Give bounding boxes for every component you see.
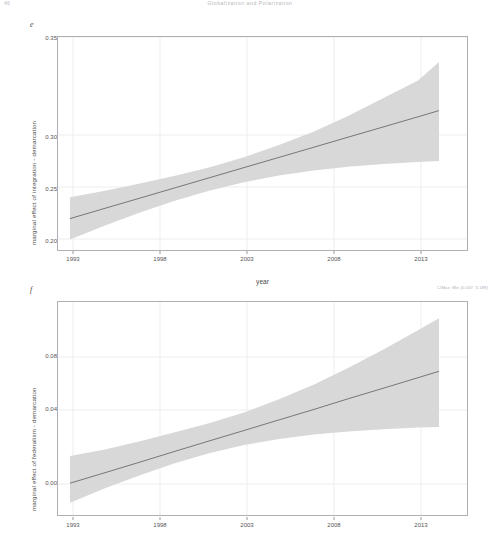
x-axis-title-e: year [57, 278, 468, 285]
x-tick-mark [160, 251, 161, 254]
x-tick-label: 2008 [327, 522, 340, 528]
x-tick-label: 2013 [414, 522, 427, 528]
x-tick-mark [334, 517, 335, 520]
plot-area-e [57, 36, 468, 251]
y-tick-label: 0.08 [11, 353, 57, 359]
running-head: Globalization and Polarization [0, 0, 500, 6]
x-tick-label: 2008 [327, 256, 340, 262]
y-tick-label: 0.30 [11, 134, 57, 140]
plot-area-f [57, 301, 468, 516]
x-tick-mark [421, 517, 422, 520]
page-header: 46 Globalization and Polarization [0, 0, 500, 12]
panel-e: e marginal effect of integration - demar… [0, 20, 500, 278]
x-tick-label: 2003 [240, 522, 253, 528]
x-tick-label: 2003 [240, 256, 253, 262]
trend-line-e [70, 111, 439, 219]
plot-svg-e [58, 37, 467, 250]
y-tick-labels-e: 0.20 0.25 0.30 0.35 [7, 20, 57, 278]
x-tick-label: 1998 [153, 522, 166, 528]
x-tick-label: 1998 [153, 256, 166, 262]
y-tick-label: 0.25 [11, 186, 57, 192]
x-tick-label: 1993 [66, 522, 79, 528]
x-tick-mark [73, 251, 74, 254]
x-tick-label: 2013 [414, 256, 427, 262]
x-tick-labels-f: 1993 1998 2003 2008 2013 [57, 522, 468, 534]
y-tick-labels-f: 0.00 0.04 0.08 [7, 285, 57, 542]
y-tick-label: 0.20 [11, 238, 57, 244]
x-tick-mark [247, 517, 248, 520]
x-tick-labels-e: 1993 1998 2003 2008 2013 [57, 256, 468, 268]
y-tick-label: 0.35 [11, 35, 57, 41]
x-tick-mark [247, 251, 248, 254]
x-tick-mark [334, 251, 335, 254]
panel-f: f marginal effect of federalism - demarc… [0, 285, 500, 542]
y-tick-label: 0.04 [11, 406, 57, 412]
x-tick-mark [73, 517, 74, 520]
x-tick-mark [160, 517, 161, 520]
x-tick-label: 1993 [66, 256, 79, 262]
plot-svg-f [58, 302, 467, 515]
y-tick-label: 0.00 [11, 480, 57, 486]
x-tick-mark [421, 251, 422, 254]
confidence-band-e [70, 62, 439, 240]
